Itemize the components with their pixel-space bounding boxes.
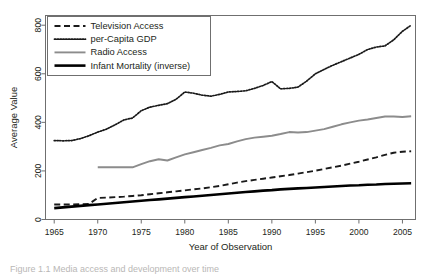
x-tick-label: 1990 — [262, 227, 281, 237]
x-axis-title: Year of Observation — [189, 241, 273, 252]
figure-caption: Figure 1.1 Media access and development … — [10, 264, 219, 274]
x-tick-label: 1965 — [45, 227, 64, 237]
series-line-3 — [54, 183, 411, 208]
figure-container: 0200400600800196519701975198019851990199… — [0, 0, 429, 274]
y-axis-title: Average Value — [8, 87, 19, 148]
x-tick-label: 1980 — [175, 227, 194, 237]
series-line-0 — [54, 151, 411, 204]
legend-label-1: per-Capita GDP — [91, 34, 157, 44]
y-tick-label: 800 — [33, 18, 43, 33]
y-tick-label: 600 — [33, 66, 43, 81]
y-tick-label: 400 — [33, 115, 43, 130]
x-tick-label: 1995 — [306, 227, 325, 237]
legend-label-0: Television Access — [91, 21, 164, 31]
x-tick-label: 1985 — [219, 227, 238, 237]
y-tick-label: 200 — [33, 164, 43, 179]
line-chart: 0200400600800196519701975198019851990199… — [0, 0, 429, 274]
legend-label-2: Radio Access — [91, 47, 148, 57]
x-tick-label: 1970 — [88, 227, 107, 237]
legend-label-3: Infant Mortality (inverse) — [91, 61, 191, 71]
x-tick-label: 2005 — [393, 227, 412, 237]
x-tick-label: 1975 — [132, 227, 151, 237]
y-tick-label: 0 — [33, 217, 43, 222]
x-tick-label: 2000 — [349, 227, 368, 237]
